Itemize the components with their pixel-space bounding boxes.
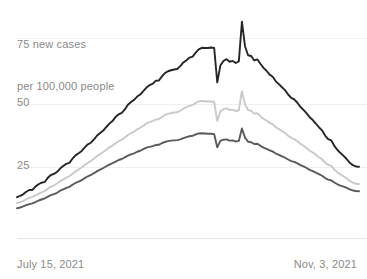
- line-chart: 75 new cases per 100,000 people 50 25 Ju…: [0, 0, 367, 279]
- y-tick-label-25: 25: [17, 159, 30, 171]
- x-axis-start-label: July 15, 2021: [17, 258, 84, 270]
- y-axis-caption-line2: per 100,000 people: [17, 79, 115, 93]
- x-axis-end-label: Nov, 3, 2021: [294, 258, 357, 270]
- y-axis-caption: 75 new cases per 100,000 people: [17, 9, 115, 121]
- y-axis-caption-line1: 75 new cases: [17, 37, 115, 51]
- y-tick-label-50: 50: [17, 96, 30, 108]
- series-line-lower: [17, 129, 359, 209]
